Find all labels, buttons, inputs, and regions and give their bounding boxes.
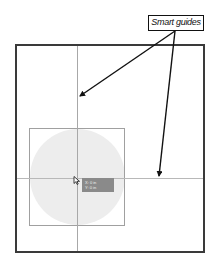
tooltip-line-2: Y: 0 in [85,185,111,190]
arrow-pointer-icon [73,176,81,185]
measurement-tooltip: X: 0 in Y: 0 in [82,178,114,192]
vertical-smart-guide [77,46,78,251]
smart-guides-callout: Smart guides [148,15,204,31]
diagram-stage: X: 0 in Y: 0 in Smart guides [0,0,218,264]
